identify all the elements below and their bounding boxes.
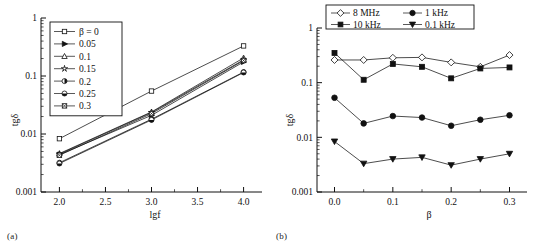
series-1-point (361, 77, 366, 82)
panel-b-legend-label-1: 1 kHz (425, 8, 448, 18)
panel-b-legend-label-0: 8 MHz (353, 8, 380, 18)
series-2-point (332, 95, 338, 101)
x-tick-label: 0.3 (504, 197, 516, 207)
y-tick-label: 0.01 (20, 129, 37, 139)
panel-b: 0.0010.010.110.00.10.20.3 8 MHz1 kHz10 k… (269, 0, 538, 245)
panel-b-plot: 0.0010.010.110.00.10.20.3 8 MHz1 kHz10 k… (269, 0, 538, 245)
legend-crossed-square-icon (62, 104, 66, 108)
x-tick-label: 0.1 (387, 197, 399, 207)
y-tick-label: 0.001 (292, 187, 314, 197)
y-tick-label: 0.1 (301, 78, 313, 88)
series-0-point (419, 54, 426, 61)
series-0-point (57, 136, 61, 140)
series-2-point (361, 121, 367, 127)
legend-filled-circle-icon (410, 10, 415, 15)
series-5-point (57, 161, 62, 166)
panel-b-label: (b) (276, 231, 287, 241)
figure-container: 0.0010.010.112.02.53.03.54.0 β = 00.050.… (0, 0, 538, 245)
y-tick-label: 0.001 (16, 187, 38, 197)
series-2-point (478, 117, 484, 123)
legend-filled-half-circle-icon (62, 91, 67, 96)
series-1-point (420, 64, 425, 69)
legend-filled-square-icon (338, 22, 343, 27)
series-1-point (507, 65, 512, 70)
series-6-point (57, 153, 61, 157)
panel-a-plot: 0.0010.010.112.02.53.03.54.0 β = 00.050.… (0, 0, 269, 245)
series-1-point (449, 76, 454, 81)
y-tick-label: 1 (308, 23, 313, 33)
panel-b-series-group (331, 50, 513, 168)
panel-b-legend-label-2: 10 kHz (353, 20, 381, 30)
panel-a-legend-label-6: 0.3 (79, 101, 91, 111)
series-0-point (360, 56, 367, 63)
series-0-point (448, 59, 455, 66)
series-0-point (241, 44, 245, 48)
panel-b-legend: 8 MHz1 kHz10 kHz0.1 kHz (326, 5, 474, 30)
series-5-point (149, 117, 154, 122)
series-line-2 (335, 98, 510, 126)
x-tick-label: 2.0 (53, 197, 65, 207)
panel-a: 0.0010.010.112.02.53.03.54.0 β = 00.050.… (0, 0, 269, 245)
y-tick-label: 1 (32, 13, 37, 23)
x-tick-label: 4.0 (238, 197, 250, 207)
legend-half-filled-circle-icon (62, 79, 67, 84)
y-tick-label: 0.1 (25, 71, 37, 81)
panel-a-legend-label-1: 0.05 (79, 39, 96, 49)
series-3-point (331, 139, 337, 145)
x-tick-label: 3.0 (146, 197, 158, 207)
panel-b-legend-label-3: 0.1 kHz (425, 20, 455, 30)
series-6-point (241, 58, 245, 62)
series-6-point (149, 111, 153, 115)
panel-a-legend-label-3: 0.15 (79, 64, 96, 74)
panel-a-y-axis-title: tgδ (9, 113, 20, 126)
panel-a-x-axis-title: lgf (149, 209, 161, 220)
legend-open-square-icon (62, 29, 66, 33)
series-5-point (241, 70, 246, 75)
x-tick-label: 3.5 (192, 197, 204, 207)
series-0-point (149, 89, 153, 93)
panel-b-x-axis-title: β (426, 209, 431, 220)
series-2-point (507, 112, 513, 118)
panel-a-legend-label-2: 0.1 (79, 52, 91, 62)
series-2-point (448, 123, 454, 129)
series-0-point (331, 56, 338, 63)
panel-a-legend-label-5: 0.25 (79, 89, 96, 99)
panel-b-y-axis-title: tgδ (284, 113, 295, 126)
series-2-point (419, 115, 425, 121)
series-3-point (448, 163, 454, 169)
series-1-point (478, 66, 483, 71)
panel-a-label: (a) (7, 231, 18, 241)
series-0-point (389, 54, 396, 61)
panel-a-legend-label-4: 0.2 (79, 77, 91, 87)
series-0-point (506, 52, 513, 59)
x-tick-label: 0.2 (445, 197, 457, 207)
panel-a-legend-label-0: β = 0 (79, 27, 99, 37)
series-1-point (332, 50, 337, 55)
series-3-point (360, 161, 366, 167)
y-tick-label: 0.01 (296, 133, 313, 143)
panel-b-axes: 0.0010.010.110.00.10.20.3 (292, 23, 527, 207)
series-2-point (390, 113, 396, 119)
panel-a-legend: β = 00.050.10.150.20.250.3 (50, 22, 122, 116)
x-tick-label: 2.5 (100, 197, 112, 207)
series-1-point (390, 61, 395, 66)
x-tick-label: 0.0 (329, 197, 341, 207)
